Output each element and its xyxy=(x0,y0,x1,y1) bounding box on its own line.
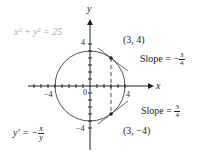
y-tick-neg4: −4 xyxy=(76,124,85,133)
point-3-4 xyxy=(109,56,113,60)
y-axis-label: y xyxy=(87,4,91,14)
origin-label: 0 xyxy=(83,88,87,97)
slope-fraction-bottom: 34 xyxy=(174,104,180,119)
y-axis xyxy=(87,19,93,150)
point-3-neg4 xyxy=(109,112,113,116)
point-label-3-neg4: (3, −4) xyxy=(123,126,150,136)
circle-equation: x² + y² = 25 xyxy=(14,27,62,37)
point-label-3-4: (3, 4) xyxy=(123,35,145,45)
y-tick-4: 4 xyxy=(81,38,85,47)
x-tick-4: 4 xyxy=(126,90,130,99)
slope-label-top: Slope = −34 xyxy=(140,52,185,67)
x-tick-neg4: −4 xyxy=(44,90,53,99)
derivative-formula: y′ = −xy xyxy=(13,125,44,142)
x-axis xyxy=(28,83,154,89)
slope-fraction-top: 34 xyxy=(179,52,185,67)
x-axis-label: x xyxy=(156,81,160,91)
slope-label-bottom: Slope = 34 xyxy=(141,104,180,119)
